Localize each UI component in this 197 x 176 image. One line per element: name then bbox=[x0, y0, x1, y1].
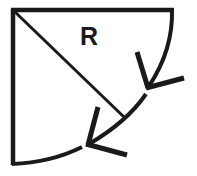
arc-segment-lower bbox=[12, 147, 82, 164]
radius-label: R bbox=[80, 22, 98, 50]
arc-segment-upper bbox=[149, 9, 172, 86]
arc-segment-middle bbox=[89, 94, 146, 144]
quarter-circle-diagram: R bbox=[0, 0, 197, 176]
radius-line bbox=[14, 11, 125, 118]
